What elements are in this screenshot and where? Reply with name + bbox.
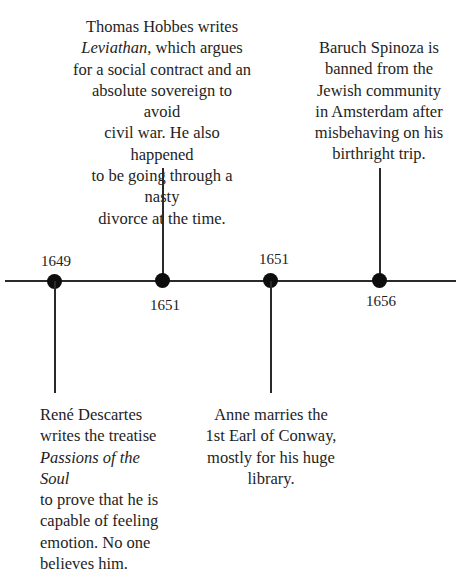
text-line: Jewish community <box>309 80 449 101</box>
text-fragment: , which argues <box>147 38 242 57</box>
event-text-spinoza: Baruch Spinoza is banned from the Jewish… <box>309 37 449 165</box>
connector-line-1656 <box>379 168 381 281</box>
text-line: mostly for his huge <box>200 447 342 468</box>
text-line: misbehaving on his <box>309 122 449 143</box>
text-line: emotion. No one <box>40 532 170 553</box>
event-text-anne: Anne marries the 1st Earl of Conway, mos… <box>200 404 342 489</box>
event-dot-1651-hobbes <box>155 273 170 288</box>
text-line: Baruch Spinoza is <box>309 37 449 58</box>
text-line: René Descartes <box>40 404 170 425</box>
text-line: Thomas Hobbes writes <box>72 16 252 37</box>
text-line: Anne marries the <box>200 404 342 425</box>
connector-line-1651-anne <box>270 281 272 393</box>
event-text-descartes: René Descartes writes the treatise Passi… <box>40 404 170 573</box>
text-line: capable of feeling <box>40 510 170 531</box>
text-line: writes the treatise <box>40 425 170 446</box>
connector-line-1649 <box>54 281 56 393</box>
year-label-1651-hobbes: 1651 <box>150 297 180 314</box>
text-line: banned from the <box>309 58 449 79</box>
book-title-passions: Passions of the Soul <box>40 448 140 488</box>
text-line: absolute sovereign to avoid <box>72 80 252 123</box>
year-label-1656: 1656 <box>366 293 396 310</box>
text-line: believes him. <box>40 553 170 573</box>
text-line: 1st Earl of Conway, <box>200 425 342 446</box>
connector-line-1651-hobbes <box>162 168 164 281</box>
year-label-1649: 1649 <box>41 253 71 270</box>
text-line: birthright trip. <box>309 143 449 164</box>
year-label-1651-anne: 1651 <box>259 251 289 268</box>
text-line: civil war. He also happened <box>72 122 252 165</box>
text-line: library. <box>200 468 342 489</box>
text-line: in Amsterdam after <box>309 101 449 122</box>
timeline-axis <box>5 280 456 282</box>
event-dot-1656 <box>372 273 387 288</box>
text-line: to prove that he is <box>40 489 170 510</box>
book-title-leviathan: Leviathan <box>81 38 147 57</box>
text-line: for a social contract and an <box>72 59 252 80</box>
